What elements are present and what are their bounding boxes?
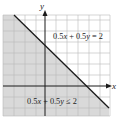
line-equation-label: 0.5x + 0.5y = 2: [53, 32, 103, 41]
x-axis-label: x: [111, 81, 116, 91]
y-axis-label: y: [39, 1, 44, 11]
inequality-label: 0.5x + 0.5y ≤ 2: [27, 97, 77, 106]
inequality-graph: y x 0.5x + 0.5y = 2 0.5x + 0.5y ≤ 2: [0, 0, 118, 119]
